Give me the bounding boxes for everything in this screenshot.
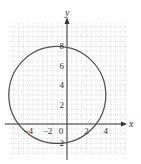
x-tick-label: 0: [59, 126, 64, 136]
y-tick-label: 2: [60, 100, 65, 110]
x-tick-label: 4: [104, 126, 109, 136]
y-tick-label: −2: [54, 138, 64, 148]
x-tick-label: −2: [43, 126, 53, 136]
y-tick-label: 6: [60, 61, 65, 71]
y-tick-label: 4: [60, 80, 65, 90]
x-axis-arrow-icon: [121, 122, 127, 127]
y-tick-label: 8: [60, 41, 65, 51]
x-tick-label: −4: [23, 126, 33, 136]
y-axis-label: y: [64, 7, 70, 18]
x-tick-label: 2: [84, 126, 89, 136]
x-axis-label: x: [128, 118, 134, 129]
circle-graph: x y −4−20248642−2: [0, 0, 141, 164]
y-axis-arrow-icon: [65, 17, 70, 24]
axes: x y: [5, 7, 134, 160]
